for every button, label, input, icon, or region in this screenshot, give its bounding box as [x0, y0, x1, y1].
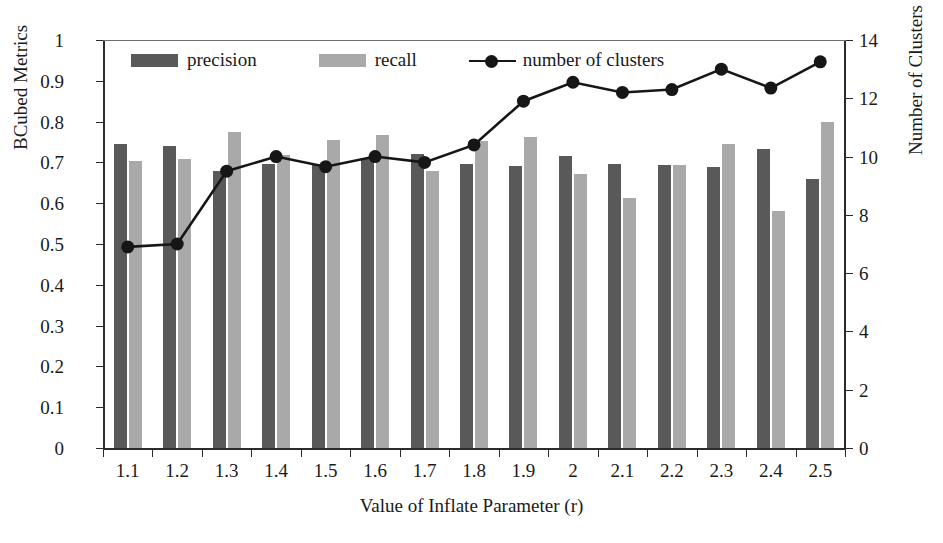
x-axis-tick-label: 1.8	[462, 461, 486, 480]
bar-precision-1.8	[460, 164, 473, 448]
right-axis-tick	[846, 331, 853, 332]
left-axis-tick	[96, 81, 103, 82]
right-axis-tick-label: 0	[859, 439, 869, 458]
left-axis-tick	[96, 326, 103, 327]
left-axis-tick	[96, 448, 103, 449]
left-axis-tick	[96, 162, 103, 163]
x-axis-tick-label: 1.6	[363, 461, 387, 480]
left-axis-title: BCubed Metrics	[10, 25, 32, 150]
x-axis-tick-label: 2.2	[660, 461, 684, 480]
x-axis-tick-label: 2.1	[611, 461, 635, 480]
x-axis-tick-label: 2	[568, 461, 578, 480]
x-axis-tick	[251, 450, 252, 457]
bar-precision-1.4	[262, 164, 275, 448]
x-axis-tick	[598, 450, 599, 457]
bar-recall-1.3	[228, 132, 241, 448]
left-axis-tick-label: 1	[55, 31, 65, 50]
bars-layer	[103, 40, 845, 448]
left-axis-tick-label: 0	[55, 439, 65, 458]
left-axis-tick-label: 0.9	[40, 72, 64, 91]
bcubed-metrics-chart: 00.10.20.30.40.50.60.70.80.91 0246810121…	[0, 0, 943, 543]
x-axis-tick	[350, 450, 351, 457]
left-axis-tick-label: 0.7	[40, 153, 64, 172]
right-axis-tick-label: 6	[859, 264, 869, 283]
left-axis-tick	[96, 244, 103, 245]
right-axis-tick	[846, 98, 853, 99]
left-axis-tick-label: 0.8	[40, 113, 64, 132]
right-axis-title: Number of Clusters	[905, 5, 927, 155]
bar-precision-1.7	[411, 154, 424, 448]
left-axis-tick-label: 0.1	[40, 398, 64, 417]
x-axis-tick	[400, 450, 401, 457]
right-axis-tick	[846, 390, 853, 391]
bar-precision-1.2	[163, 146, 176, 448]
x-axis-tick-label: 2.5	[808, 461, 832, 480]
bar-precision-1.5	[312, 164, 325, 448]
bar-recall-1.2	[178, 159, 191, 448]
left-axis-tick-label: 0.4	[40, 276, 64, 295]
right-axis-tick	[846, 40, 853, 41]
x-axis-tick-label: 1.5	[314, 461, 338, 480]
bar-recall-1.4	[277, 155, 290, 448]
x-axis-tick	[796, 450, 797, 457]
chart-legend: precision recall number of clusters	[131, 46, 664, 74]
right-axis-tick	[846, 448, 853, 449]
legend-swatch-recall-icon	[319, 54, 366, 67]
bottom-axis-line	[103, 448, 846, 450]
right-axis-tick	[846, 215, 853, 216]
bar-precision-2.4	[757, 149, 770, 448]
bar-precision-1.9	[509, 166, 522, 448]
right-axis-tick-label: 8	[859, 206, 869, 225]
bar-recall-1.5	[327, 140, 340, 448]
x-axis-tick-label: 1.3	[215, 461, 239, 480]
x-axis-tick-label: 1.7	[413, 461, 437, 480]
right-axis-tick	[846, 273, 853, 274]
bar-recall-1.8	[475, 141, 488, 448]
x-axis-tick	[845, 450, 846, 457]
x-axis-tick	[152, 450, 153, 457]
bar-recall-2.5	[821, 122, 834, 448]
right-axis-tick	[846, 157, 853, 158]
legend-swatch-precision-icon	[131, 54, 178, 67]
x-axis-tick	[746, 450, 747, 457]
left-axis-tick	[96, 40, 103, 41]
legend-label-precision: precision	[187, 49, 257, 71]
right-axis-tick-label: 2	[859, 381, 869, 400]
x-axis-tick-label: 1.1	[116, 461, 140, 480]
bar-precision-2.3	[707, 167, 720, 448]
legend-item-precision: precision	[131, 49, 257, 71]
legend-item-recall: recall	[319, 49, 417, 71]
x-axis-tick-label: 1.9	[512, 461, 536, 480]
left-axis-tick	[96, 407, 103, 408]
right-axis-tick-label: 10	[859, 148, 878, 167]
legend-label-recall: recall	[375, 49, 417, 71]
left-axis-tick-label: 0.2	[40, 357, 64, 376]
x-axis-tick-label: 1.2	[165, 461, 189, 480]
x-axis-tick	[647, 450, 648, 457]
left-axis-tick	[96, 122, 103, 123]
bar-precision-2.5	[806, 179, 819, 448]
left-axis-tick	[96, 285, 103, 286]
bar-precision-1.1	[114, 144, 127, 448]
bar-recall-1.6	[376, 135, 389, 448]
bar-precision-1.3	[213, 171, 226, 448]
x-axis-tick	[697, 450, 698, 457]
left-axis-tick-label: 0.5	[40, 235, 64, 254]
bar-precision-2.1	[608, 164, 621, 448]
right-axis-tick-label: 4	[859, 322, 869, 341]
x-axis-tick	[499, 450, 500, 457]
left-axis-tick-label: 0.3	[40, 317, 64, 336]
x-axis-tick	[103, 450, 104, 457]
bar-precision-1.6	[361, 158, 374, 448]
bar-precision-2.2	[658, 165, 671, 448]
left-axis-tick-label: 0.6	[40, 194, 64, 213]
bar-recall-1.9	[524, 137, 537, 448]
x-axis-tick	[301, 450, 302, 457]
bar-recall-2.3	[722, 144, 735, 448]
bar-recall-2.1	[623, 198, 636, 448]
bar-recall-2.4	[772, 211, 785, 448]
legend-label-clusters: number of clusters	[523, 49, 664, 71]
right-axis-tick-label: 14	[859, 31, 878, 50]
left-axis-tick	[96, 366, 103, 367]
bar-recall-1.7	[426, 171, 439, 448]
